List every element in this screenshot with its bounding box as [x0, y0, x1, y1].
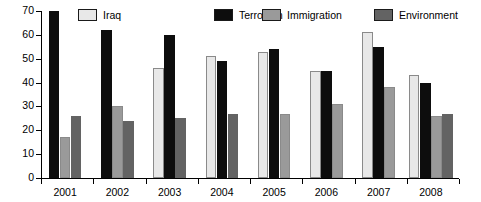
x-tick — [198, 179, 199, 184]
y-tick-label: 0 — [0, 171, 34, 183]
y-tick-label: 70 — [0, 4, 34, 16]
y-tick-label: 60 — [0, 28, 34, 40]
bar-immigration-2001 — [60, 137, 71, 178]
x-tick — [93, 179, 94, 184]
y-tick-label-wrap: 70 — [0, 11, 34, 12]
y-tick-label: 20 — [0, 123, 34, 135]
y-tick-label: 10 — [0, 147, 34, 159]
bar-terrorism-2004 — [217, 61, 228, 178]
x-tick — [302, 179, 303, 184]
y-tick-label-wrap: 50 — [0, 59, 34, 60]
x-axis-label-2006: 2006 — [315, 186, 338, 198]
x-axis-label-2004: 2004 — [210, 186, 233, 198]
bar-environment-2003 — [175, 118, 186, 178]
x-tick — [355, 179, 356, 184]
x-axis-label-2003: 2003 — [158, 186, 181, 198]
y-tick-label: 40 — [0, 76, 34, 88]
y-tick-label-wrap: 10 — [0, 154, 34, 155]
bar-terrorism-2006 — [321, 71, 332, 178]
x-axis-label-2001: 2001 — [53, 186, 76, 198]
bar-chart: IraqTerrorismImmigrationEnvironment 0102… — [0, 0, 481, 202]
x-axis-label-2008: 2008 — [419, 186, 442, 198]
bar-environment-2008 — [442, 114, 453, 178]
x-tick — [41, 179, 42, 184]
plot-area — [41, 11, 459, 178]
bar-environment-2002 — [123, 121, 134, 178]
y-tick-label-wrap: 40 — [0, 83, 34, 84]
bar-environment-2004 — [228, 114, 239, 178]
y-tick-label: 50 — [0, 52, 34, 64]
bar-terrorism-2003 — [164, 35, 175, 178]
bar-environment-2001 — [71, 116, 82, 178]
y-tick-label-wrap: 30 — [0, 106, 34, 107]
y-tick-label-wrap: 20 — [0, 130, 34, 131]
bar-immigration-2006 — [332, 104, 343, 178]
bar-iraq-2007 — [362, 32, 373, 178]
bar-iraq-2005 — [258, 52, 269, 178]
x-tick — [407, 179, 408, 184]
bar-immigration-2008 — [431, 116, 442, 178]
x-axis-label-2005: 2005 — [262, 186, 285, 198]
y-tick-label-wrap: 0 — [0, 178, 34, 179]
x-tick — [250, 179, 251, 184]
bar-iraq-2006 — [310, 71, 321, 178]
bar-iraq-2003 — [153, 68, 164, 178]
x-tick — [146, 179, 147, 184]
bar-terrorism-2005 — [269, 49, 280, 178]
x-axis-label-2007: 2007 — [367, 186, 390, 198]
y-tick-label: 30 — [0, 99, 34, 111]
bar-iraq-2008 — [409, 75, 420, 178]
bar-immigration-2005 — [280, 114, 291, 178]
bar-terrorism-2008 — [420, 83, 431, 178]
bar-immigration-2002 — [112, 106, 123, 178]
x-axis-label-2002: 2002 — [106, 186, 129, 198]
bar-terrorism-2007 — [373, 47, 384, 178]
bar-immigration-2007 — [384, 87, 395, 178]
bar-iraq-2004 — [206, 56, 217, 178]
x-tick — [459, 179, 460, 184]
y-tick-label-wrap: 60 — [0, 35, 34, 36]
bar-terrorism-2001 — [49, 11, 60, 178]
bar-terrorism-2002 — [101, 30, 112, 178]
